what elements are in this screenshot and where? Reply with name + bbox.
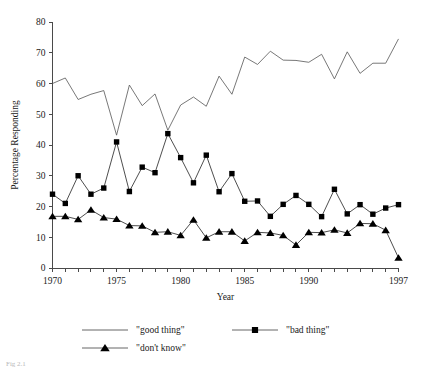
series-line-0 — [53, 39, 399, 135]
legend-label: "bad thing" — [286, 325, 329, 335]
data-point-marker — [191, 180, 196, 185]
data-point-marker — [101, 185, 106, 190]
line-chart: 0102030405060708019701975198019851990199… — [0, 0, 423, 368]
y-axis-tick-label: 40 — [36, 140, 46, 150]
x-axis-tick-label: 1990 — [299, 276, 318, 286]
data-point-marker — [176, 232, 184, 239]
y-axis-tick-label: 60 — [36, 79, 46, 89]
chart-legend: "good thing""bad thing""don't know" — [82, 325, 329, 353]
data-point-marker — [204, 152, 209, 157]
y-axis-tick-label: 50 — [36, 110, 46, 120]
chart-figure: 0102030405060708019701975198019851990199… — [0, 0, 423, 368]
caption-label: Fig 2.1 — [6, 360, 26, 368]
data-point-marker — [394, 254, 402, 261]
data-point-marker — [216, 189, 221, 194]
legend-label: "good thing" — [136, 325, 185, 335]
y-axis-tick-label: 70 — [36, 48, 46, 58]
data-point-marker — [75, 173, 80, 178]
data-point-marker — [382, 227, 390, 234]
x-axis-tick-label: 1975 — [107, 276, 126, 286]
data-point-marker — [189, 216, 197, 223]
data-point-marker — [152, 170, 157, 175]
data-point-marker — [63, 201, 68, 206]
data-point-marker — [165, 131, 170, 136]
series-line-1 — [53, 134, 399, 217]
data-point-marker — [370, 211, 375, 216]
data-point-marker — [255, 198, 260, 203]
data-point-marker — [88, 192, 93, 197]
data-point-marker — [330, 226, 338, 233]
data-point-marker — [164, 228, 172, 235]
x-axis-tick-label: 1980 — [171, 276, 190, 286]
y-axis-tick-label: 0 — [41, 263, 46, 273]
x-axis-tick-label: 1997 — [389, 276, 408, 286]
data-point-marker — [229, 171, 234, 176]
data-point-marker — [87, 206, 95, 213]
data-point-marker — [306, 202, 311, 207]
y-axis-tick-label: 80 — [36, 17, 46, 27]
data-point-marker — [140, 164, 145, 169]
data-point-marker — [114, 139, 119, 144]
data-point-marker — [357, 202, 362, 207]
data-point-marker — [268, 214, 273, 219]
data-point-marker — [202, 234, 210, 241]
data-point-marker — [242, 199, 247, 204]
y-axis-tick-label: 30 — [36, 171, 46, 181]
legend-marker-square — [252, 327, 258, 333]
y-axis-tick-label: 20 — [36, 202, 46, 212]
data-point-marker — [253, 229, 261, 236]
legend-label: "don't know" — [136, 343, 186, 353]
figure-caption: Fig 2.1 — [6, 360, 26, 368]
data-point-marker — [396, 202, 401, 207]
data-point-marker — [345, 211, 350, 216]
data-point-marker — [293, 193, 298, 198]
x-axis-tick-label: 1970 — [43, 276, 62, 286]
x-axis-title: Year — [217, 292, 235, 302]
data-point-marker — [332, 187, 337, 192]
y-axis-title: Percentage Responding — [10, 100, 20, 190]
data-point-marker — [127, 189, 132, 194]
axis-labels: 0102030405060708019701975198019851990199… — [10, 17, 408, 302]
data-point-marker — [100, 214, 108, 221]
data-point-marker — [178, 155, 183, 160]
data-point-marker — [50, 192, 55, 197]
y-axis-tick-label: 10 — [36, 233, 46, 243]
x-axis-tick-label: 1985 — [235, 276, 254, 286]
data-series — [48, 39, 402, 261]
data-point-marker — [383, 205, 388, 210]
data-point-marker — [280, 202, 285, 207]
data-point-marker — [319, 214, 324, 219]
